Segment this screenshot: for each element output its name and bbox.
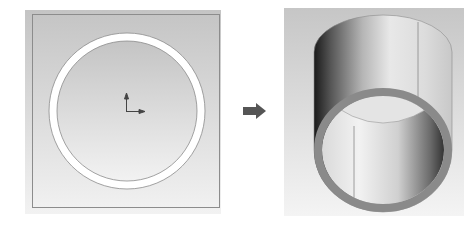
right-arrow-icon (243, 103, 266, 119)
diagram (0, 0, 464, 227)
tube-panel (284, 8, 464, 216)
sketch-panel (25, 10, 221, 214)
